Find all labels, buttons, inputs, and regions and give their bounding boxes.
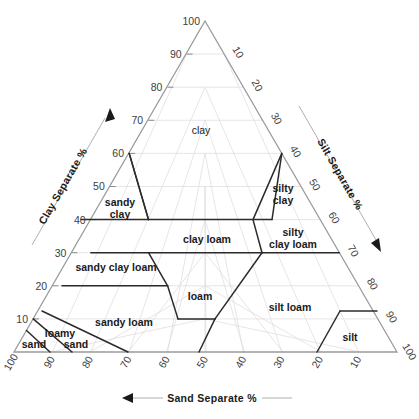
left-tick-100: 100	[182, 15, 200, 27]
region-label-sandy-loam: sandy loam	[95, 316, 153, 328]
bottom-axis-title-group: Sand Separate %	[122, 392, 292, 404]
ternary-diagram: 10 20 30 40 50 60 70 80 90 100 10 20 30 …	[0, 0, 419, 419]
clay-axis-arrow-icon	[105, 108, 115, 122]
bottom-tick-90: 90	[41, 354, 57, 370]
right-tick-60: 60	[326, 210, 342, 226]
region-label-silt: silt	[342, 331, 358, 343]
silt-axis-arrow-icon	[371, 238, 381, 252]
left-tick-50: 50	[93, 180, 105, 192]
left-tick-90: 90	[170, 48, 182, 60]
right-tick-70: 70	[345, 243, 361, 259]
right-tick-80: 80	[365, 276, 381, 292]
grid-lines	[33, 54, 378, 352]
left-tick-30: 30	[55, 247, 67, 259]
left-tick-60: 60	[112, 147, 124, 159]
left-tick-80: 80	[151, 81, 163, 93]
right-axis-tick-labels: 10 20 30 40 50 60 70 80 90 100	[230, 44, 419, 362]
region-label-silty-clay-loam-line2: clay loam	[269, 238, 317, 250]
right-tick-100: 100	[400, 341, 419, 362]
bottom-axis-tick-labels: 100 90 80 70 60 50 40 30 20 10	[1, 351, 363, 372]
bottom-axis-title: Sand Separate %	[167, 392, 257, 404]
bottom-tick-100: 100	[1, 351, 20, 372]
right-tick-40: 40	[288, 143, 304, 159]
sand-axis-arrow-icon	[122, 393, 133, 403]
left-axis-tick-labels: 10 20 30 40 50 60 70 80 90 100	[16, 15, 200, 325]
region-label-sandy-clay-line2: clay	[110, 208, 131, 220]
bottom-tick-60: 60	[156, 354, 172, 370]
region-label-sandy-clay-line1: sandy	[105, 196, 136, 208]
region-label-silty-clay-line1: silty	[272, 182, 293, 194]
region-label-silty-clay-loam-line1: silty	[282, 226, 303, 238]
boundary-silt-left	[317, 311, 340, 352]
soil-texture-triangle-figure: 10 20 30 40 50 60 70 80 90 100 10 20 30 …	[0, 0, 419, 419]
bottom-tick-10: 10	[347, 354, 363, 370]
right-tick-10: 10	[230, 44, 246, 60]
right-tick-20: 20	[249, 77, 265, 93]
region-label-sandy-clay-loam: sandy clay loam	[75, 261, 156, 273]
bottom-tick-40: 40	[232, 354, 248, 370]
region-label-loam: loam	[188, 290, 213, 302]
boundary-silt-loam-left	[199, 319, 215, 352]
right-axis-title: Silt Separate %	[315, 136, 366, 212]
region-label-sand: sand	[22, 338, 47, 350]
right-tick-30: 30	[269, 110, 285, 126]
region-label-clay-loam: clay loam	[183, 233, 231, 245]
left-tick-10: 10	[16, 313, 28, 325]
boundary-clay-loam-right	[253, 220, 262, 253]
region-label-silty-clay-line2: clay	[273, 194, 294, 206]
region-label-clay: clay	[192, 124, 211, 136]
region-label-silt-loam: silt loam	[269, 301, 312, 313]
left-tick-70: 70	[132, 114, 144, 126]
left-tick-20: 20	[36, 280, 48, 292]
bottom-tick-30: 30	[271, 354, 287, 370]
right-tick-50: 50	[307, 176, 323, 192]
left-tick-40: 40	[74, 214, 86, 226]
region-label-loamy-sand-line2: sand	[64, 338, 89, 350]
bottom-tick-70: 70	[117, 354, 133, 370]
bottom-tick-50: 50	[194, 354, 210, 370]
right-tick-90: 90	[384, 309, 400, 325]
bottom-tick-20: 20	[309, 354, 325, 370]
bottom-tick-80: 80	[79, 354, 95, 370]
